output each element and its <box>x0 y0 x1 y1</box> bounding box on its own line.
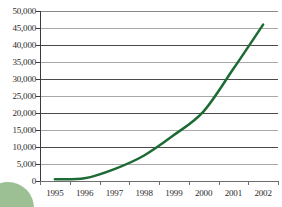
x-axis-label: 2002 <box>255 189 272 198</box>
x-tick <box>278 181 279 185</box>
y-axis-label: 15,000 <box>2 126 36 135</box>
x-tick <box>219 181 220 185</box>
y-axis-label: 10,000 <box>2 143 36 152</box>
y-axis-label: 45,000 <box>2 24 36 33</box>
y-axis-label: 40,000 <box>2 41 36 50</box>
y-axis-label: 30,000 <box>2 75 36 84</box>
series-line-path <box>55 25 263 180</box>
x-tick <box>189 181 190 185</box>
x-tick <box>159 181 160 185</box>
y-axis-label: 25,000 <box>2 92 36 101</box>
x-tick <box>129 181 130 185</box>
x-tick <box>248 181 249 185</box>
series-line-chart <box>40 11 278 181</box>
x-axis-label: 2000 <box>195 189 212 198</box>
x-axis-label: 1999 <box>165 189 182 198</box>
x-axis-label: 1998 <box>136 189 153 198</box>
x-axis-label: 1996 <box>76 189 93 198</box>
y-axis-labels: 05,00010,00015,00020,00025,00030,00035,0… <box>0 0 36 207</box>
x-tick <box>40 181 41 185</box>
x-tick <box>100 181 101 185</box>
x-axis-label: 1997 <box>106 189 123 198</box>
y-axis-label: 50,000 <box>2 7 36 16</box>
chart-page: 05,00010,00015,00020,00025,00030,00035,0… <box>0 0 282 207</box>
y-axis-label: 20,000 <box>2 109 36 118</box>
y-axis-label: 35,000 <box>2 58 36 67</box>
y-axis-label: 5,000 <box>2 160 36 169</box>
x-axis-label: 2001 <box>225 189 242 198</box>
x-axis-label: 1995 <box>46 189 63 198</box>
x-tick <box>70 181 71 185</box>
